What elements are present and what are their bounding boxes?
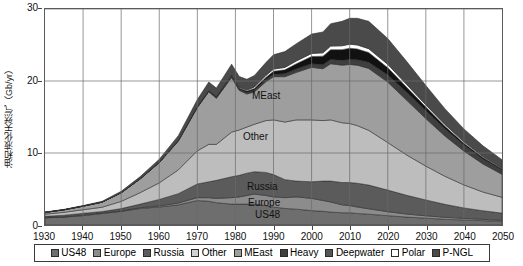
legend-swatch-icon (325, 249, 333, 257)
stacked-area-svg (45, 9, 502, 225)
legend-item-polar[interactable]: Polar (391, 248, 425, 258)
y-tick-mark (38, 8, 42, 9)
legend-item-us48[interactable]: US48 (51, 248, 87, 258)
legend-swatch-icon (280, 249, 288, 257)
series-label-us48: US48 (255, 209, 280, 220)
legend-item-russia[interactable]: Russia (143, 248, 184, 258)
legend-item-deepwater[interactable]: Deepwater (325, 248, 384, 258)
x-tick-mark (82, 226, 83, 230)
x-tick-mark (427, 226, 428, 230)
chart-figure: 油和液化天然气（Gb/yr） 0102030 MEastOtherRussiaE… (0, 0, 523, 266)
legend-item-europe[interactable]: Europe (93, 248, 136, 258)
legend-swatch-icon (51, 249, 59, 257)
x-tick-label: 1980 (215, 231, 255, 242)
legend-label: US48 (61, 248, 86, 258)
x-tick-label: 1960 (139, 231, 179, 242)
series-label-europe: Europe (248, 197, 280, 208)
legend-item-heavy[interactable]: Heavy (280, 248, 319, 258)
legend-label: Russia (154, 248, 185, 258)
chart-legend: US48EuropeRussiaOtherMEastHeavyDeepwater… (34, 244, 490, 262)
plot-area (44, 8, 503, 226)
x-tick-mark (312, 226, 313, 230)
legend-swatch-icon (93, 249, 101, 257)
legend-swatch-icon (191, 249, 199, 257)
x-tick-label: 2010 (330, 231, 370, 242)
legend-swatch-icon (143, 249, 151, 257)
series-label-meast: MEast (252, 90, 280, 101)
legend-swatch-icon (432, 249, 440, 257)
legend-swatch-icon (234, 249, 242, 257)
legend-label: Deepwater (336, 248, 384, 258)
x-tick-mark (350, 226, 351, 230)
series-label-russia: Russia (247, 181, 278, 192)
legend-label: Polar (402, 248, 425, 258)
legend-swatch-icon (391, 249, 399, 257)
legend-label: P-NGL (443, 248, 474, 258)
x-tick-label: 1940 (62, 231, 102, 242)
series-label-other: Other (243, 131, 268, 142)
x-axis-tick-labels: 1930194019501960197019801990200020102020… (0, 231, 523, 245)
legend-label: MEast (244, 248, 272, 258)
x-tick-mark (197, 226, 198, 230)
y-tick-mark (38, 153, 42, 154)
legend-item-meast[interactable]: MEast (234, 248, 273, 258)
x-tick-label: 1950 (101, 231, 141, 242)
x-tick-label: 2020 (368, 231, 408, 242)
x-tick-label: 2030 (407, 231, 447, 242)
x-tick-label: 2050 (483, 231, 523, 242)
x-tick-label: 2000 (292, 231, 332, 242)
x-tick-label: 1930 (24, 231, 64, 242)
legend-label: Other (202, 248, 227, 258)
x-tick-mark (235, 226, 236, 230)
legend-label: Heavy (290, 248, 318, 258)
x-tick-label: 1990 (254, 231, 294, 242)
x-tick-mark (121, 226, 122, 230)
legend-item-p-ngl[interactable]: P-NGL (432, 248, 473, 258)
x-tick-mark (274, 226, 275, 230)
y-tick-mark (38, 81, 42, 82)
x-tick-mark (159, 226, 160, 230)
legend-item-other[interactable]: Other (191, 248, 227, 258)
x-tick-mark (465, 226, 466, 230)
x-tick-label: 1970 (177, 231, 217, 242)
legend-label: Europe (104, 248, 136, 258)
x-tick-label: 2040 (445, 231, 485, 242)
x-tick-mark (388, 226, 389, 230)
